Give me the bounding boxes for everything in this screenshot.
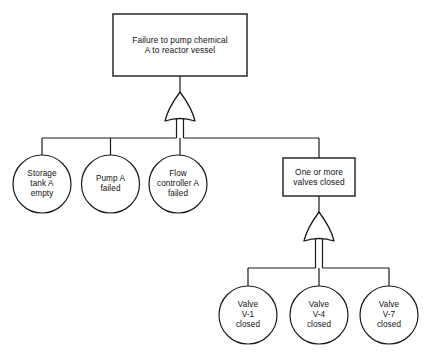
basic-event-circle-flow-controller[interactable] xyxy=(149,155,207,213)
top-event-box[interactable] xyxy=(113,14,247,76)
basic-event-circle-valve-v7[interactable] xyxy=(360,286,418,344)
basic-event-circle-valve-v1[interactable] xyxy=(219,286,277,344)
or-gate-1[interactable] xyxy=(165,92,195,121)
basic-event-circle-pump[interactable] xyxy=(82,155,140,213)
basic-event-circle-storage-tank[interactable] xyxy=(13,155,71,213)
intermediate-event-box[interactable] xyxy=(283,158,355,196)
basic-event-circle-valve-v4[interactable] xyxy=(290,286,348,344)
fault-tree-canvas xyxy=(0,0,426,357)
fault-tree-diagram: Failure to pump chemical A to reactor ve… xyxy=(0,0,426,357)
or-gate-2[interactable] xyxy=(304,212,334,241)
